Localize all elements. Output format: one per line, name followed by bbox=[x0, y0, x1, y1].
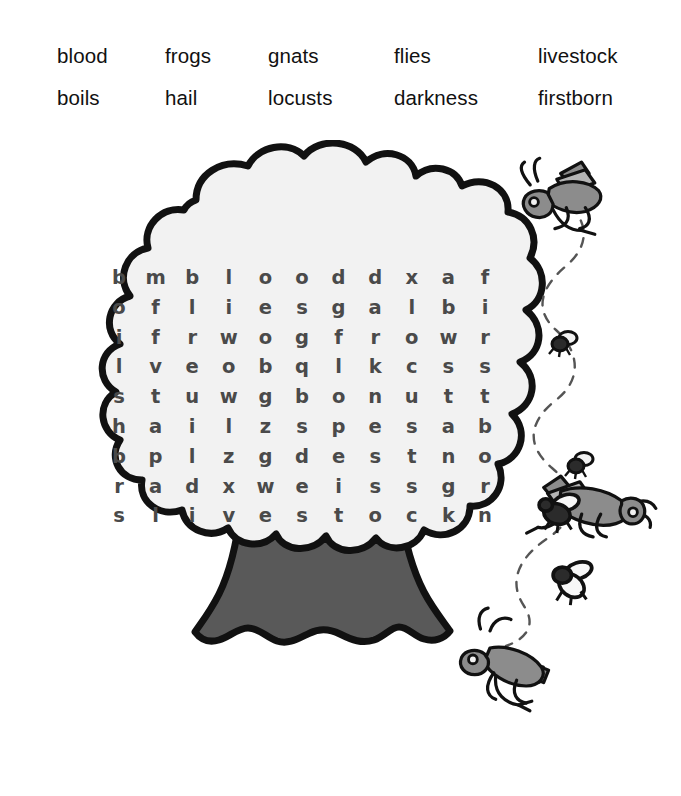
letter-cell[interactable]: g bbox=[289, 323, 315, 353]
letter-cell[interactable]: s bbox=[289, 501, 315, 531]
letter-cell[interactable]: r bbox=[472, 472, 498, 502]
letter-cell[interactable]: a bbox=[435, 263, 461, 293]
letter-cell[interactable]: n bbox=[362, 382, 388, 412]
letter-cell[interactable]: i bbox=[216, 293, 242, 323]
word-bank-item-boils[interactable]: boils bbox=[57, 84, 100, 112]
letter-cell[interactable]: b bbox=[106, 442, 132, 472]
letter-cell[interactable]: e bbox=[179, 352, 205, 382]
letter-cell[interactable]: a bbox=[143, 412, 169, 442]
letter-cell[interactable]: g bbox=[435, 472, 461, 502]
letter-cell[interactable]: d bbox=[179, 472, 205, 502]
letter-cell[interactable]: v bbox=[216, 501, 242, 531]
letter-cell[interactable]: r bbox=[472, 323, 498, 353]
letter-cell[interactable]: t bbox=[435, 382, 461, 412]
letter-cell[interactable]: i bbox=[326, 472, 352, 502]
letter-cell[interactable]: d bbox=[326, 263, 352, 293]
word-bank-item-darkness[interactable]: darkness bbox=[394, 84, 478, 112]
word-bank-item-livestock[interactable]: livestock bbox=[538, 42, 618, 70]
letter-cell[interactable]: s bbox=[399, 412, 425, 442]
letter-cell[interactable]: b bbox=[435, 293, 461, 323]
letter-cell[interactable]: i bbox=[179, 501, 205, 531]
letter-cell[interactable]: i bbox=[472, 293, 498, 323]
letter-cell[interactable]: r bbox=[106, 472, 132, 502]
letter-cell[interactable]: l bbox=[179, 293, 205, 323]
word-bank-item-locusts[interactable]: locusts bbox=[268, 84, 333, 112]
letter-cell[interactable]: h bbox=[106, 412, 132, 442]
letter-cell[interactable]: u bbox=[179, 382, 205, 412]
letter-cell[interactable]: o bbox=[289, 263, 315, 293]
letter-cell[interactable]: s bbox=[106, 382, 132, 412]
letter-cell[interactable]: i bbox=[179, 412, 205, 442]
letter-cell[interactable]: o bbox=[362, 501, 388, 531]
letter-cell[interactable]: o bbox=[252, 323, 278, 353]
letter-cell[interactable]: s bbox=[289, 293, 315, 323]
letter-cell[interactable]: l bbox=[143, 501, 169, 531]
letter-cell[interactable]: i bbox=[106, 323, 132, 353]
letter-cell[interactable]: d bbox=[289, 442, 315, 472]
letter-cell[interactable]: w bbox=[252, 472, 278, 502]
letter-cell[interactable]: b bbox=[289, 382, 315, 412]
letter-cell[interactable]: v bbox=[143, 352, 169, 382]
letter-cell[interactable]: s bbox=[472, 352, 498, 382]
letter-cell[interactable]: m bbox=[143, 263, 169, 293]
word-bank-item-gnats[interactable]: gnats bbox=[268, 42, 319, 70]
letter-cell[interactable]: x bbox=[399, 263, 425, 293]
letter-cell[interactable]: d bbox=[362, 263, 388, 293]
letter-cell[interactable]: c bbox=[399, 352, 425, 382]
letter-cell[interactable]: q bbox=[289, 352, 315, 382]
letter-cell[interactable]: o bbox=[216, 352, 242, 382]
letter-cell[interactable]: l bbox=[179, 442, 205, 472]
letter-cell[interactable]: t bbox=[326, 501, 352, 531]
letter-cell[interactable]: n bbox=[435, 442, 461, 472]
letter-cell[interactable]: z bbox=[252, 412, 278, 442]
letter-cell[interactable]: o bbox=[252, 263, 278, 293]
letter-cell[interactable]: b bbox=[106, 263, 132, 293]
letter-cell[interactable]: o bbox=[106, 293, 132, 323]
word-bank-item-flies[interactable]: flies bbox=[394, 42, 431, 70]
letter-cell[interactable]: s bbox=[435, 352, 461, 382]
letter-cell[interactable]: s bbox=[289, 412, 315, 442]
letter-cell[interactable]: a bbox=[435, 412, 461, 442]
letter-cell[interactable]: r bbox=[362, 323, 388, 353]
letter-cell[interactable]: p bbox=[326, 412, 352, 442]
letter-cell[interactable]: f bbox=[143, 293, 169, 323]
letter-cell[interactable]: k bbox=[435, 501, 461, 531]
letter-cell[interactable]: p bbox=[143, 442, 169, 472]
letter-cell[interactable]: s bbox=[362, 472, 388, 502]
letter-cell[interactable]: f bbox=[326, 323, 352, 353]
letter-cell[interactable]: f bbox=[143, 323, 169, 353]
letter-cell[interactable]: z bbox=[216, 442, 242, 472]
letter-cell[interactable]: e bbox=[252, 293, 278, 323]
letter-cell[interactable]: l bbox=[399, 293, 425, 323]
letter-cell[interactable]: k bbox=[362, 352, 388, 382]
letter-cell[interactable]: w bbox=[435, 323, 461, 353]
letter-cell[interactable]: o bbox=[472, 442, 498, 472]
letter-cell[interactable]: o bbox=[399, 323, 425, 353]
letter-cell[interactable]: u bbox=[399, 382, 425, 412]
word-bank-item-frogs[interactable]: frogs bbox=[165, 42, 211, 70]
letter-cell[interactable]: w bbox=[216, 382, 242, 412]
letter-cell[interactable]: a bbox=[143, 472, 169, 502]
letter-cell[interactable]: f bbox=[472, 263, 498, 293]
letter-cell[interactable]: g bbox=[326, 293, 352, 323]
word-bank-item-blood[interactable]: blood bbox=[57, 42, 108, 70]
letter-cell[interactable]: a bbox=[362, 293, 388, 323]
letter-cell[interactable]: s bbox=[106, 501, 132, 531]
letter-cell[interactable]: e bbox=[362, 412, 388, 442]
letter-cell[interactable]: t bbox=[399, 442, 425, 472]
letter-cell[interactable]: g bbox=[252, 382, 278, 412]
letter-cell[interactable]: o bbox=[326, 382, 352, 412]
letter-cell[interactable]: w bbox=[216, 323, 242, 353]
letter-cell[interactable]: b bbox=[179, 263, 205, 293]
letter-cell[interactable]: l bbox=[216, 412, 242, 442]
letter-cell[interactable]: x bbox=[216, 472, 242, 502]
letter-cell[interactable]: r bbox=[179, 323, 205, 353]
letter-cell[interactable]: g bbox=[252, 442, 278, 472]
letter-cell[interactable]: e bbox=[326, 442, 352, 472]
word-bank-item-hail[interactable]: hail bbox=[165, 84, 197, 112]
letter-cell[interactable]: l bbox=[106, 352, 132, 382]
letter-cell[interactable]: l bbox=[216, 263, 242, 293]
word-bank-item-firstborn[interactable]: firstborn bbox=[538, 84, 613, 112]
letter-cell[interactable]: l bbox=[326, 352, 352, 382]
letter-cell[interactable]: n bbox=[472, 501, 498, 531]
